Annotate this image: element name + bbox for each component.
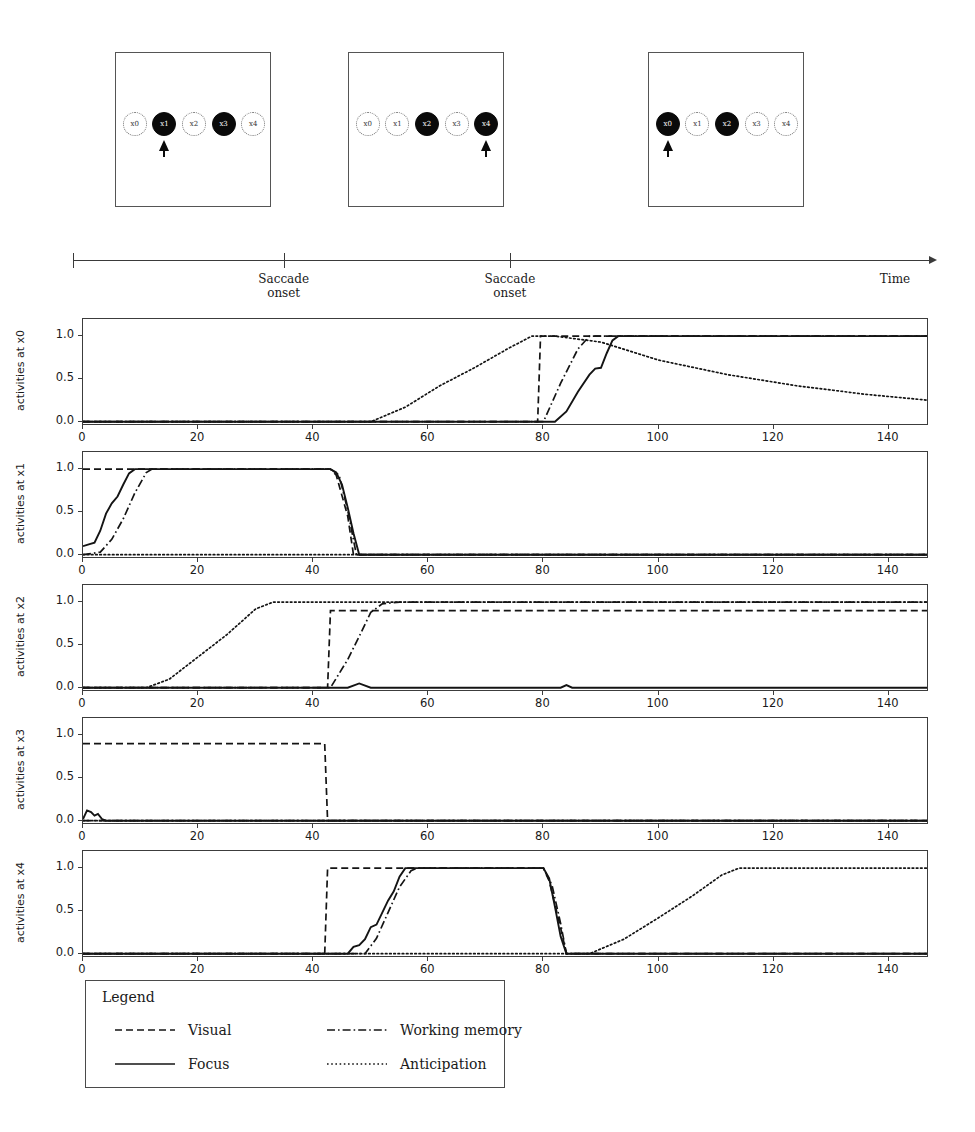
x-tick-label: 20: [177, 829, 217, 843]
y-tick-label: 1.0: [40, 726, 74, 740]
plot-canvas-x1: [83, 452, 928, 558]
location-node-label: x4: [782, 120, 790, 128]
series-working-memory-x2: [83, 602, 928, 688]
x-tick-mark: [773, 957, 774, 961]
series-focus-x0: [83, 336, 928, 422]
node-row: x0x1x2x3x4: [120, 109, 268, 139]
timeline-axis-line: [73, 260, 933, 261]
x-tick-mark: [658, 691, 659, 695]
x-tick-mark: [888, 691, 889, 695]
plot-canvas-x3: [83, 718, 928, 824]
y-tick-mark: [78, 554, 83, 555]
x-tick-label: 100: [638, 563, 678, 577]
x-tick-mark: [427, 425, 428, 429]
plot-panel-x0: activities at x00.00.51.0020406080100120…: [0, 318, 975, 425]
plot-canvas-x2: [83, 585, 928, 691]
x-tick-mark: [82, 425, 83, 429]
x-tick-mark: [82, 558, 83, 562]
location-node-label: x4: [482, 120, 490, 128]
x-tick-mark: [82, 691, 83, 695]
y-tick-mark: [78, 953, 83, 954]
location-node-label: x2: [190, 120, 198, 128]
timeline-tick-saccade-1: [284, 253, 285, 268]
series-visual-x4: [83, 868, 928, 954]
legend-label: Visual: [188, 1022, 231, 1038]
x-tick-label: 100: [638, 829, 678, 843]
x-tick-mark: [312, 957, 313, 961]
plot-canvas-x4: [83, 851, 928, 957]
x-tick-label: 100: [638, 696, 678, 710]
location-node-x1: x1: [685, 112, 709, 136]
x-tick-label: 20: [177, 696, 217, 710]
y-tick-mark: [78, 601, 83, 602]
series-anticipation-x2: [83, 602, 928, 688]
location-node-x0: x0: [656, 112, 680, 136]
x-tick-mark: [427, 957, 428, 961]
y-axis-label-x3: activities at x3: [14, 716, 27, 823]
legend: Legend VisualWorking memoryFocusAnticipa…: [85, 980, 505, 1088]
location-node-label: x0: [364, 120, 372, 128]
y-tick-mark: [78, 335, 83, 336]
y-tick-label: 0.0: [40, 413, 74, 427]
y-tick-mark: [78, 867, 83, 868]
y-axis-label-x2: activities at x2: [14, 583, 27, 690]
x-tick-mark: [542, 957, 543, 961]
x-tick-label: 60: [407, 829, 447, 843]
x-tick-label: 100: [638, 430, 678, 444]
plot-frame-x1: [82, 451, 928, 558]
x-tick-mark: [658, 558, 659, 562]
y-tick-label: 1.0: [40, 327, 74, 341]
series-focus-x4: [83, 868, 928, 954]
location-node-x4: x4: [774, 112, 798, 136]
legend-entry-visual: Visual: [114, 1019, 231, 1041]
x-tick-mark: [82, 957, 83, 961]
location-node-x4: x4: [241, 112, 265, 136]
x-tick-label: 0: [62, 962, 102, 976]
x-tick-mark: [197, 425, 198, 429]
x-tick-label: 60: [407, 696, 447, 710]
y-tick-label: 0.5: [40, 902, 74, 916]
plot-frame-x4: [82, 850, 928, 957]
x-tick-mark: [82, 824, 83, 828]
location-node-x1: x1: [152, 112, 176, 136]
timeline: Saccade onsetSaccade onsetTime: [0, 248, 975, 306]
plot-canvas-x0: [83, 319, 928, 425]
timeline-tick-start: [73, 253, 74, 268]
y-tick-mark: [78, 910, 83, 911]
x-tick-mark: [658, 425, 659, 429]
x-tick-label: 40: [292, 563, 332, 577]
x-tick-label: 20: [177, 962, 217, 976]
x-tick-label: 20: [177, 563, 217, 577]
timeline-tick-saccade-2: [510, 253, 511, 268]
x-tick-mark: [542, 425, 543, 429]
x-tick-label: 120: [753, 563, 793, 577]
plot-panel-x3: activities at x30.00.51.0020406080100120…: [0, 717, 975, 824]
y-tick-label: 0.5: [40, 769, 74, 783]
x-tick-label: 140: [868, 696, 908, 710]
legend-title: Legend: [102, 989, 155, 1005]
legend-line-sample-solid: [114, 1058, 176, 1070]
location-node-x3: x3: [745, 112, 769, 136]
location-node-label: x0: [131, 120, 139, 128]
x-tick-label: 40: [292, 430, 332, 444]
y-tick-label: 0.0: [40, 679, 74, 693]
plot-frame-x0: [82, 318, 928, 425]
y-tick-label: 1.0: [40, 460, 74, 474]
location-node-label: x1: [393, 120, 401, 128]
x-tick-mark: [888, 425, 889, 429]
plot-panel-x1: activities at x10.00.51.0020406080100120…: [0, 451, 975, 558]
x-tick-mark: [888, 558, 889, 562]
x-tick-label: 60: [407, 563, 447, 577]
plot-panel-x4: activities at x40.00.51.0020406080100120…: [0, 850, 975, 957]
x-tick-mark: [773, 558, 774, 562]
x-tick-label: 80: [522, 430, 562, 444]
y-tick-label: 0.5: [40, 636, 74, 650]
y-tick-mark: [78, 820, 83, 821]
gaze-arrow-icon: [481, 140, 491, 151]
location-node-x2: x2: [182, 112, 206, 136]
timeline-label-time: Time: [860, 272, 930, 286]
x-tick-label: 120: [753, 430, 793, 444]
x-tick-mark: [312, 824, 313, 828]
y-tick-label: 0.0: [40, 812, 74, 826]
x-tick-label: 80: [522, 829, 562, 843]
